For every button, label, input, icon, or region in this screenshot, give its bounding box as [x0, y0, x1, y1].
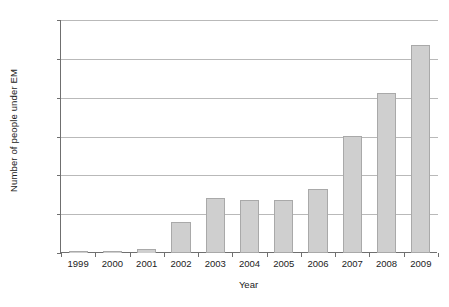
x-tick-mark: [198, 253, 199, 257]
bar: [377, 93, 396, 253]
x-tick-mark: [164, 253, 165, 257]
bar-slot: [335, 20, 369, 253]
bar: [137, 249, 156, 253]
bar-slot: [232, 20, 266, 253]
bar-slot: [61, 20, 95, 253]
bar: [343, 136, 362, 253]
gridline: [61, 253, 438, 254]
bar-slot: [369, 20, 403, 253]
bar: [308, 189, 327, 253]
bar: [69, 251, 88, 253]
bar: [274, 200, 293, 253]
bar-chart: Number of people under EM 19992000200120…: [0, 0, 449, 307]
x-tick-label: 2009: [401, 258, 441, 269]
bar-slot: [198, 20, 232, 253]
bar: [103, 251, 122, 253]
y-axis-title-text: Number of people under EM: [9, 68, 20, 191]
bar: [240, 200, 259, 253]
x-tick-mark: [232, 253, 233, 257]
bar: [411, 45, 430, 253]
bar-slot: [267, 20, 301, 253]
x-tick-mark: [335, 253, 336, 257]
x-tick-mark: [130, 253, 131, 257]
bar-slot: [404, 20, 438, 253]
x-tick-mark: [267, 253, 268, 257]
bar-slot: [130, 20, 164, 253]
x-tick-mark: [61, 253, 62, 257]
x-tick-mark: [301, 253, 302, 257]
x-tick-mark: [438, 253, 439, 257]
bar: [206, 198, 225, 253]
x-tick-mark: [95, 253, 96, 257]
bars: [61, 20, 438, 253]
bar-slot: [95, 20, 129, 253]
x-tick-mark: [404, 253, 405, 257]
bar: [171, 222, 190, 253]
x-axis-title: Year: [60, 279, 437, 290]
bar-slot: [301, 20, 335, 253]
bar-slot: [164, 20, 198, 253]
x-tick-mark: [369, 253, 370, 257]
y-axis-title: Number of people under EM: [6, 0, 22, 260]
plot-area: 1999200020012002200320042005200620072008…: [60, 20, 437, 253]
